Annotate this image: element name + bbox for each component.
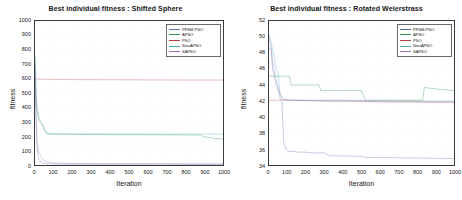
x-tick-label: 1000 <box>445 169 462 175</box>
x-tick-label: 100 <box>43 169 63 175</box>
x-tick-label: 0 <box>24 169 44 175</box>
x-tick-label: 600 <box>370 169 390 175</box>
y-tick-label: 50 <box>246 33 265 39</box>
x-tick-label: 700 <box>389 169 409 175</box>
legend-item-label: SAPSO <box>182 49 196 55</box>
panel-rotated-weierstrass: Best individual fitness : Rotated Weiers… <box>231 0 462 200</box>
y-tick-label: 44 <box>246 82 265 88</box>
legend-swatch-line-icon <box>169 29 180 30</box>
figure-two-panel-line-charts: Best individual fitness : Shifted Sphere… <box>0 0 462 200</box>
legend-item-sapso[interactable]: SAPSO <box>400 49 449 55</box>
y-tick-label: 800 <box>12 46 31 52</box>
legend-swatch-line-icon <box>400 40 411 41</box>
y-tick-label: 38 <box>246 130 265 136</box>
y-tick-label: 400 <box>12 104 31 110</box>
y-tick-label: 1000 <box>12 17 31 23</box>
x-tick-label: 500 <box>119 169 139 175</box>
x-tick-label: 300 <box>81 169 101 175</box>
y-tick-label: 600 <box>12 75 31 81</box>
legend-swatch-line-icon <box>400 34 411 35</box>
x-tick-label: 800 <box>176 169 196 175</box>
x-tick-label: 900 <box>426 169 446 175</box>
legend-item-label: SAPSO <box>413 49 427 55</box>
x-tick-label: 200 <box>295 169 315 175</box>
y-tick-label: 900 <box>12 31 31 37</box>
page-title: Best individual fitness : Rotated Weiers… <box>231 5 462 12</box>
x-tick-label: 500 <box>352 169 372 175</box>
legend-swatch-line-icon <box>400 29 411 30</box>
x-tick-label: 700 <box>157 169 177 175</box>
x-tick-label: 400 <box>333 169 353 175</box>
legend-swatch-line-icon <box>169 46 180 47</box>
legend-swatch-line-icon <box>400 51 411 52</box>
panel-shifted-sphere: Best individual fitness : Shifted Sphere… <box>0 0 231 200</box>
y-tick-label: 200 <box>12 134 31 140</box>
y-tick-label: 300 <box>12 119 31 125</box>
x-tick-label: 200 <box>62 169 82 175</box>
legend-swatch-line-icon <box>400 46 411 47</box>
x-tick-label: 400 <box>100 169 120 175</box>
page-title: Best individual fitness : Shifted Sphere <box>0 5 231 12</box>
y-tick-label: 48 <box>246 49 265 55</box>
chart-legend[interactable]: PFSM-PSOAPSOPSOSinuAPSOSAPSO <box>397 24 452 57</box>
x-tick-label: 600 <box>138 169 158 175</box>
x-tick-label: 300 <box>314 169 334 175</box>
x-tick-label: 100 <box>277 169 297 175</box>
x-tick-label: 800 <box>408 169 428 175</box>
y-tick-label: 100 <box>12 148 31 154</box>
y-tick-label: 40 <box>246 114 265 120</box>
y-tick-label: 42 <box>246 98 265 104</box>
y-tick-label: 700 <box>12 61 31 67</box>
x-tick-label: 0 <box>258 169 278 175</box>
y-tick-label: 46 <box>246 65 265 71</box>
legend-swatch-line-icon <box>169 51 180 52</box>
x-axis-label: Iteration <box>268 180 455 187</box>
legend-swatch-line-icon <box>169 40 180 41</box>
y-tick-label: 36 <box>246 147 265 153</box>
x-tick-label: 900 <box>195 169 215 175</box>
legend-swatch-line-icon <box>169 34 180 35</box>
legend-item-sapso[interactable]: SAPSO <box>169 49 218 55</box>
y-tick-label: 500 <box>12 90 31 96</box>
chart-legend[interactable]: PFSM-PSOAPSOPSOSinuAPSOSAPSO <box>166 24 221 57</box>
x-axis-label: Iteration <box>34 180 224 187</box>
y-tick-label: 52 <box>246 17 265 23</box>
